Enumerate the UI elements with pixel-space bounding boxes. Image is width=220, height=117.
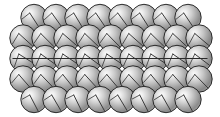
- figure-canvas: [0, 0, 220, 117]
- sphere: [175, 86, 201, 112]
- sphere-body: [175, 86, 201, 112]
- sphere-lattice-diagram: [0, 0, 220, 117]
